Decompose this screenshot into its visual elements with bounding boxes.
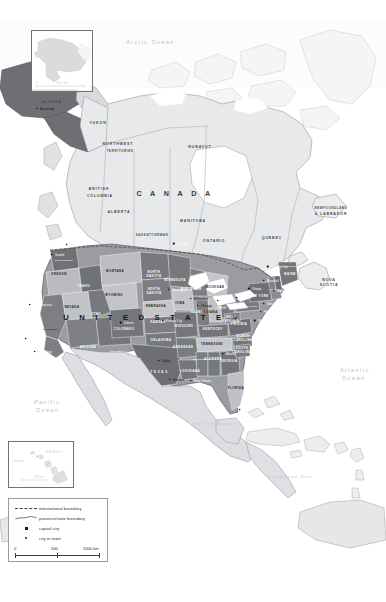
city-label-1: Vancouver xyxy=(70,243,84,247)
city-label-18: Houston xyxy=(173,378,185,382)
state-label-41: VIRGINIA xyxy=(223,319,240,323)
province-label-6: ALBERTA xyxy=(108,210,131,214)
province-label-0: YUKON xyxy=(89,121,106,125)
state-label-7: DAKOTA xyxy=(146,291,162,295)
state-label-5: DAKOTA xyxy=(146,274,162,278)
legend-label-province-boundary: province/state boundary xyxy=(39,516,85,521)
legend-row-province-boundary: province/state boundary xyxy=(13,513,103,523)
solid-line-icon xyxy=(13,516,39,520)
state-label-1: OREGON xyxy=(51,272,67,276)
city-marker xyxy=(263,280,265,282)
city-label-25: Seattle xyxy=(55,253,65,257)
province-label-7: SASKATCHEWAN xyxy=(136,233,169,237)
city-label-16: Atlanta xyxy=(226,352,236,356)
scale-tick-1000: 1000 km xyxy=(83,546,99,551)
legend-row-international-boundary: international boundary xyxy=(13,503,103,513)
legend-row-capital-city: capital city xyxy=(13,523,103,533)
province-label-10: QUEBEC xyxy=(262,236,282,240)
province-label-8: MANITOBA xyxy=(180,219,206,223)
state-label-24: MICHIGAN xyxy=(206,285,225,289)
state-label-12: COLORADO xyxy=(114,327,135,331)
province-label-1: NORTHWEST xyxy=(103,142,134,146)
legend-scale-bar: 0 500 1000 km xyxy=(13,545,103,558)
square-marker-icon xyxy=(13,527,39,530)
state-label-28: TENNESSEE xyxy=(201,342,223,346)
province-label-9: ONTARIO xyxy=(203,239,225,243)
city-label-15: Kansas City xyxy=(166,319,183,323)
state-label-11: UTAH xyxy=(91,312,101,316)
city-label-12: New York xyxy=(267,302,280,306)
state-label-29: ARKANSAS xyxy=(173,345,193,349)
capital-city-marker xyxy=(267,266,269,268)
city-label-9: Chicago xyxy=(201,304,212,308)
state-label-18: T E X A S xyxy=(150,370,167,374)
province-label-4: BRITISH xyxy=(89,187,109,191)
ocean-label-3: Gulf of Mexico xyxy=(193,421,236,426)
province-label-3: NUNAVUT xyxy=(188,145,211,149)
city-label-8: Milwaukee xyxy=(194,297,209,301)
state-label-0: WASHINGTON xyxy=(55,259,73,261)
city-marker xyxy=(51,254,53,256)
state-label-27: KENTUCKY xyxy=(203,327,223,331)
city-marker xyxy=(260,311,262,313)
city-label-24: San Diego xyxy=(38,350,52,354)
state-label-22: MISSOURI xyxy=(175,324,193,328)
city-label-4: Montreal xyxy=(267,279,279,283)
city-marker xyxy=(34,351,36,353)
city-marker xyxy=(169,379,171,381)
city-marker xyxy=(222,353,224,355)
hawaii-inset-frame xyxy=(8,441,74,488)
city-label-7: Minneapolis xyxy=(172,288,189,292)
province-label-2: TERRITORIES xyxy=(107,149,134,153)
map-legend: international boundary province/state bo… xyxy=(8,498,108,562)
country-label-0: C A N A D A xyxy=(136,189,213,198)
ocean-label-4: Caribbean Sea xyxy=(268,474,312,479)
alaska-inset-frame xyxy=(31,30,93,92)
legend-label-capital-city: capital city xyxy=(39,526,59,531)
city-label-5: Ottawa xyxy=(252,287,262,291)
city-marker xyxy=(36,108,38,110)
city-label-14: Washington xyxy=(258,319,274,323)
capital-city-marker xyxy=(248,288,250,290)
state-label-15: ARIZONA xyxy=(80,345,97,349)
state-label-8: WYOMING xyxy=(105,293,123,297)
city-label-0: Anchorage xyxy=(40,107,55,111)
city-marker xyxy=(190,380,192,382)
city-label-13: Philadelphia xyxy=(264,310,281,314)
state-label-30: LOUISIANA xyxy=(180,369,201,373)
city-marker xyxy=(273,290,275,292)
legend-label-international-boundary: international boundary xyxy=(39,506,82,511)
city-label-21: Denver xyxy=(124,321,134,325)
province-label-11: NEWFOUNDLAND xyxy=(314,206,347,210)
ocean-label-0: Arctic Ocean xyxy=(125,39,175,45)
province-label-15: ALASKA xyxy=(42,100,62,104)
capital-city-marker xyxy=(120,322,122,324)
state-label-16: NEW MEXICO xyxy=(110,350,127,352)
city-marker xyxy=(217,300,219,302)
city-marker xyxy=(162,320,164,322)
state-label-34: FLORIDA xyxy=(228,386,245,390)
city-marker xyxy=(25,338,27,340)
state-label-44: MAINE xyxy=(284,272,296,276)
city-label-22: San Francisco xyxy=(33,303,53,307)
capital-city-marker xyxy=(254,320,256,322)
city-marker xyxy=(190,298,192,300)
state-label-26: OHIO xyxy=(217,306,227,310)
province-label-14: SCOTIA xyxy=(320,283,339,287)
ocean-label-2-b: Ocean xyxy=(342,375,365,381)
state-label-19: MINNESOTA xyxy=(164,278,186,282)
city-label-3: Quebec City xyxy=(271,265,288,269)
city-marker xyxy=(158,360,160,362)
legend-row-city-or-town: city or town xyxy=(13,533,103,543)
state-label-33: GEORGIA xyxy=(220,359,238,363)
city-marker xyxy=(197,305,199,307)
state-label-2: IDAHO xyxy=(78,284,90,288)
city-label-19: New Orleans xyxy=(194,379,212,383)
scale-tick-500: 500 xyxy=(51,546,58,551)
city-label-20: Miami xyxy=(243,408,251,412)
state-label-21: IOWA xyxy=(175,301,185,305)
state-label-10: NEVADA xyxy=(65,305,80,309)
state-label-17: OKLAHOMA xyxy=(150,338,171,342)
city-marker xyxy=(263,303,265,305)
province-label-13: NOVA xyxy=(322,278,336,282)
